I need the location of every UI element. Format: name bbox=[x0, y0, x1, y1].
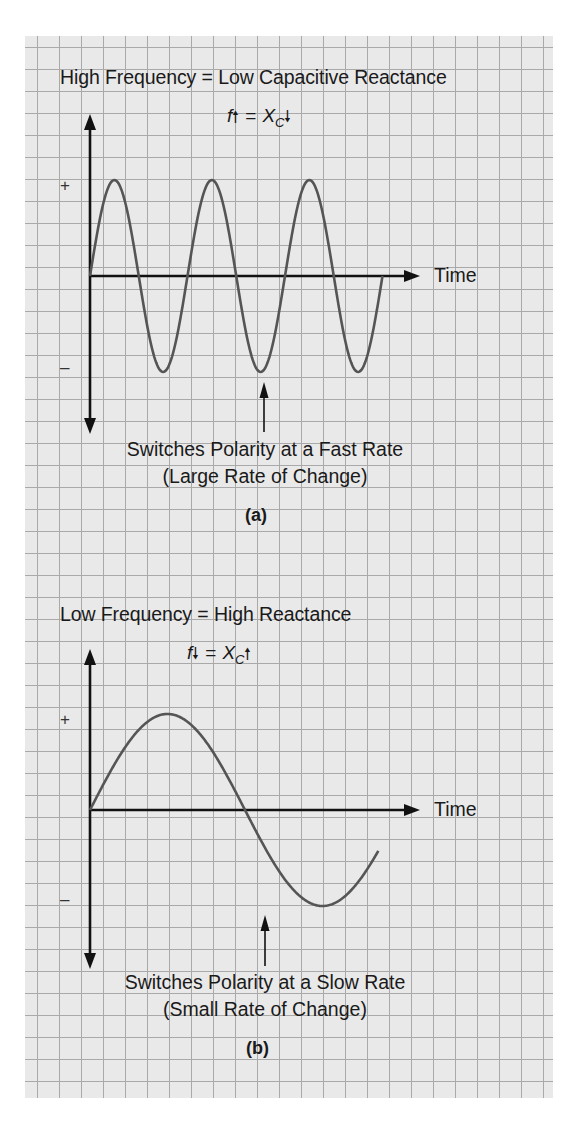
panel-a-formula: f🠕=XC🠗 bbox=[227, 105, 291, 132]
panel-b-title: Low Frequency = High Reactance bbox=[60, 603, 351, 626]
reactance-symbol: X bbox=[262, 105, 275, 126]
reactance-subscript: C bbox=[275, 115, 284, 130]
arrow-down-icon bbox=[84, 953, 96, 969]
panel-a-negative-marker: – bbox=[60, 358, 69, 378]
panel-b-axes bbox=[84, 649, 420, 969]
panel-a-time-label: Time bbox=[434, 264, 477, 287]
arrow-down-icon bbox=[84, 418, 96, 434]
waveform-diagrams bbox=[0, 0, 579, 1133]
panel-a-positive-marker: + bbox=[60, 176, 70, 196]
panel-b-annotation-line1: Switches Polarity at a Slow Rate bbox=[97, 971, 433, 994]
equals-sign: = bbox=[199, 642, 222, 663]
panel-b-negative-marker: – bbox=[60, 890, 69, 910]
panel-a-label: (a) bbox=[245, 505, 267, 526]
arrow-up-icon bbox=[260, 382, 269, 398]
panel-b-time-label: Time bbox=[434, 798, 477, 821]
reactance-subscript: C bbox=[235, 652, 244, 667]
arrow-up-icon: 🠕 bbox=[244, 645, 251, 662]
panel-b-annotation-arrow bbox=[261, 915, 270, 966]
panel-b-label: (b) bbox=[246, 1038, 269, 1059]
arrow-up-icon bbox=[84, 114, 96, 130]
arrow-up-icon bbox=[84, 649, 96, 665]
panel-b-formula: f🠗=XC🠕 bbox=[187, 642, 251, 669]
arrow-right-icon bbox=[404, 270, 420, 282]
arrow-right-icon bbox=[404, 804, 420, 816]
panel-a-annotation-line2: (Large Rate of Change) bbox=[99, 465, 431, 488]
panel-b-positive-marker: + bbox=[60, 710, 70, 730]
panel-a-title: High Frequency = Low Capacitive Reactanc… bbox=[60, 66, 447, 89]
arrow-down-icon: 🠗 bbox=[284, 108, 291, 125]
panel-a-axes bbox=[84, 114, 420, 434]
panel-a-annotation-arrow bbox=[260, 382, 269, 432]
reactance-symbol: X bbox=[222, 642, 235, 663]
panel-b-annotation-line2: (Small Rate of Change) bbox=[97, 998, 433, 1021]
panel-a-annotation-line1: Switches Polarity at a Fast Rate bbox=[99, 438, 431, 461]
equals-sign: = bbox=[239, 105, 262, 126]
arrow-up-icon bbox=[261, 915, 270, 931]
